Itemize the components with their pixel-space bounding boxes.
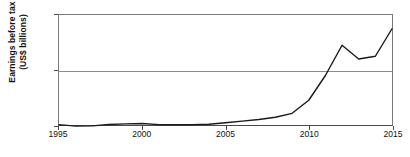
x-tick-label-2010: 2010 [287, 129, 331, 139]
y-axis-label: Earnings before tax (US$ billions) [1, 0, 35, 101]
chart-container: Earnings before tax (US$ billions) 04080… [0, 0, 410, 157]
data-series-line [59, 15, 392, 125]
x-tick-mark-1995 [58, 126, 59, 130]
x-tick-mark-2005 [226, 126, 227, 130]
x-tick-label-2015: 2015 [371, 129, 410, 139]
x-tick-mark-2010 [309, 126, 310, 130]
x-tick-label-2005: 2005 [204, 129, 248, 139]
x-tick-mark-2015 [393, 126, 394, 130]
x-tick-mark-2000 [142, 126, 143, 130]
y-axis-label-line-2: (US$ billions) [18, 14, 29, 70]
y-axis-label-line-1: Earnings before tax [7, 1, 18, 82]
plot-area [58, 14, 393, 126]
x-tick-label-1995: 1995 [36, 129, 80, 139]
x-tick-label-2000: 2000 [120, 129, 164, 139]
